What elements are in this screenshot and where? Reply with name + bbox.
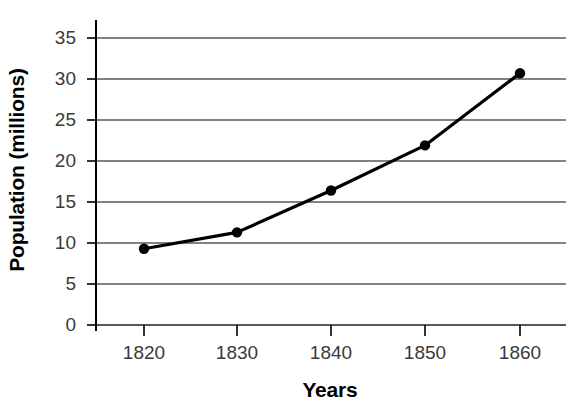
data-point-marker bbox=[515, 68, 525, 78]
gridlines-group bbox=[96, 38, 566, 325]
y-tick-label: 15 bbox=[28, 192, 76, 211]
line-chart: 05101520253035 18201830184018501860 Popu… bbox=[0, 0, 572, 408]
y-tick-label: 5 bbox=[28, 274, 76, 293]
y-tick-label: 0 bbox=[28, 315, 76, 334]
data-point-marker bbox=[326, 185, 336, 195]
y-tick-label: 20 bbox=[28, 151, 76, 170]
y-tick-label: 25 bbox=[28, 110, 76, 129]
y-tick-marks-group bbox=[87, 38, 96, 325]
data-point-marker bbox=[139, 244, 149, 254]
data-point-marker bbox=[420, 140, 430, 150]
x-tick-marks-group bbox=[144, 325, 520, 336]
y-tick-label: 30 bbox=[28, 69, 76, 88]
data-point-marker bbox=[232, 227, 242, 237]
y-tick-label: 35 bbox=[28, 28, 76, 47]
x-tick-label: 1820 bbox=[104, 343, 184, 362]
x-tick-label: 1840 bbox=[291, 343, 371, 362]
x-tick-label: 1850 bbox=[385, 343, 465, 362]
x-tick-label: 1860 bbox=[480, 343, 560, 362]
x-tick-label: 1830 bbox=[197, 343, 277, 362]
x-axis-title: Years bbox=[95, 378, 565, 402]
y-axis-title: Population (millions) bbox=[0, 0, 34, 340]
y-tick-label: 10 bbox=[28, 233, 76, 252]
